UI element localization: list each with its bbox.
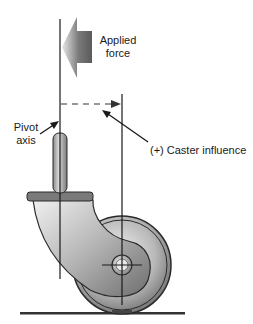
caster-influence-label: (+) Caster influence bbox=[150, 144, 246, 157]
caster-pointer-arrow bbox=[102, 110, 148, 142]
pivot-axis-label-line2: axis bbox=[12, 134, 40, 147]
applied-force-label-line1: Applied bbox=[99, 34, 137, 47]
pivot-axis-label: Pivot axis bbox=[12, 121, 40, 147]
dashed-offset-arrow bbox=[61, 100, 121, 108]
applied-force-label: Applied force bbox=[99, 34, 137, 60]
applied-force-label-line2: force bbox=[99, 47, 137, 60]
fork bbox=[33, 200, 150, 297]
pivot-pointer-arrow bbox=[40, 121, 59, 134]
ground bbox=[20, 312, 185, 315]
pivot-axis-label-line1: Pivot bbox=[12, 121, 40, 134]
applied-force-arrow bbox=[62, 17, 92, 78]
